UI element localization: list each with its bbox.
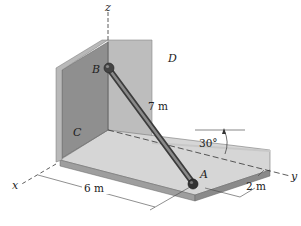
rod-diagram: z x y 30° B A D C 7 m 6 m 2 m (0, 0, 301, 226)
x-axis-label: x (12, 179, 19, 192)
rod-length-label: 7 m (148, 100, 168, 112)
point-a-label: A (199, 168, 208, 181)
ball-joint-b (104, 63, 114, 73)
angle-arrow (222, 128, 226, 134)
angle-label: 30° (199, 137, 218, 149)
dim-6m-label: 6 m (84, 182, 104, 194)
wall-d-label: D (167, 52, 177, 65)
y-axis-label: y (290, 170, 298, 183)
point-b-label: B (91, 63, 100, 76)
x-axis (20, 164, 56, 185)
wall-c-label: C (73, 126, 82, 139)
dim-2m-label: 2 m (246, 180, 266, 192)
wall-d (108, 40, 152, 142)
z-axis-label: z (104, 1, 111, 14)
